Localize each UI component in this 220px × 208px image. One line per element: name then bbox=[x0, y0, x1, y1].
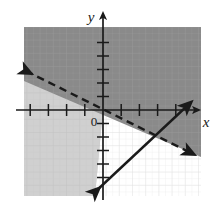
major-gridlines bbox=[24, 27, 201, 196]
x-axis-label: x bbox=[202, 114, 210, 130]
y-axis-label: y bbox=[86, 9, 95, 25]
origin-label: 0 bbox=[91, 114, 98, 129]
grid bbox=[24, 27, 201, 196]
graph-screenshot: y x 0 bbox=[0, 0, 220, 208]
coordinate-plane-graph: y x 0 bbox=[0, 0, 220, 208]
